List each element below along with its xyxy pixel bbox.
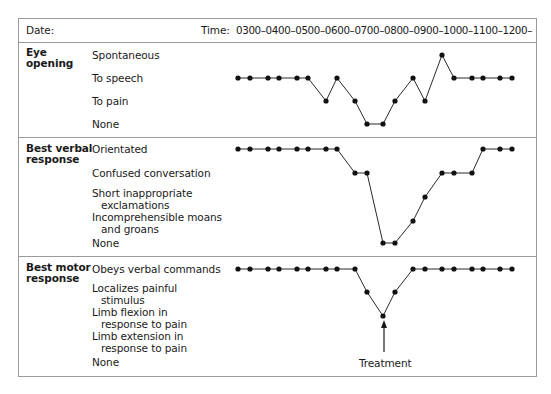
series-best-motor-response [235,266,514,318]
data-point [410,75,415,80]
data-point [497,146,502,151]
treatment-annotation: Treatment [359,357,412,369]
data-point [497,266,502,271]
data-point [451,170,456,175]
data-point [276,75,281,80]
data-point [265,266,270,271]
data-point [410,218,415,223]
data-point [509,75,514,80]
data-point [352,170,357,175]
data-point [380,240,385,245]
data-point [451,75,456,80]
data-point [410,266,415,271]
data-point [439,170,444,175]
data-point [352,266,357,271]
data-point [294,266,299,271]
data-point [235,146,240,151]
data-point [422,266,427,271]
data-point [480,266,485,271]
data-point [352,98,357,103]
data-point [276,266,281,271]
data-point [469,266,474,271]
data-point [235,266,240,271]
data-point [364,289,369,294]
data-point [451,266,456,271]
data-point [497,75,502,80]
data-point [276,146,281,151]
data-point [323,146,328,151]
data-point [364,170,369,175]
gcs-plot [0,0,551,394]
treatment-arrow-icon [381,320,387,352]
data-point [439,52,444,57]
data-point [439,266,444,271]
data-point [392,240,397,245]
data-point [334,146,339,151]
data-point [509,266,514,271]
data-point [364,121,369,126]
data-point [294,75,299,80]
data-point [480,146,485,151]
data-point [247,75,252,80]
data-point [265,75,270,80]
data-point [247,266,252,271]
data-point [247,146,252,151]
data-point [294,146,299,151]
data-point [509,146,514,151]
data-point [380,313,385,318]
data-point [323,266,328,271]
data-point [334,75,339,80]
data-point [323,98,328,103]
data-point [380,121,385,126]
data-point [480,75,485,80]
data-point [392,98,397,103]
data-point [305,75,310,80]
data-point [422,194,427,199]
data-point [305,266,310,271]
data-point [265,146,270,151]
data-point [305,146,310,151]
series-eye-opening [235,52,514,126]
data-point [392,289,397,294]
data-point [469,170,474,175]
data-point [469,75,474,80]
series-best-verbal-response [235,146,514,245]
data-point [235,75,240,80]
data-point [334,266,339,271]
data-point [422,98,427,103]
